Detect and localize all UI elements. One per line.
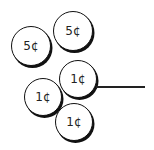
coin-label: 5¢: [65, 24, 80, 38]
coin-label: 1¢: [66, 115, 81, 129]
coin-penny-1: 1¢: [59, 60, 97, 98]
coin-label: 1¢: [35, 90, 50, 104]
coin-nickel-2: 5¢: [53, 11, 93, 51]
coin-label: 5¢: [23, 39, 38, 53]
coin-penny-2: 1¢: [24, 78, 62, 116]
coin-nickel-1: 5¢: [11, 26, 51, 66]
coin-penny-3: 1¢: [55, 103, 93, 141]
coin-label: 1¢: [70, 72, 85, 86]
answer-line: [96, 86, 145, 88]
